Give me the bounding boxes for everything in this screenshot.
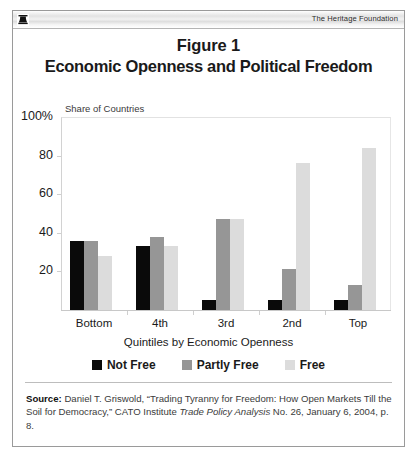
bar-3rd-partly-free [216,219,230,310]
x-axis-tick [127,311,128,315]
source-note: Source: Daniel T. Griswold, “Trading Tyr… [26,392,394,432]
header-title: The Heritage Foundation [312,14,398,23]
y-axis-label: 60 [17,186,53,200]
legend-item-free[interactable]: Free [285,358,325,372]
heritage-bell-logo-icon [17,14,29,26]
x-axis-tick [193,311,194,315]
legend-label: Partly Free [197,358,259,372]
legend-swatch-icon [92,360,102,370]
x-axis-title: Quintiles by Economic Openness [13,336,404,348]
legend-label: Free [300,358,325,372]
source-label: Source: [26,393,62,404]
bar-4th-free [164,246,178,310]
bar-4th-partly-free [150,237,164,310]
x-axis-tick [259,311,260,315]
bar-2nd-free [296,163,310,310]
bar-bottom-free [98,256,112,310]
y-axis-label: 100% [13,109,53,123]
x-axis-label-2nd: 2nd [257,317,327,329]
legend-swatch-icon [182,360,192,370]
figure-title: Economic Openness and Political Freedom [13,57,404,76]
x-axis-label-top: Top [323,317,393,329]
figure-card: The Heritage Foundation Figure 1 Economi… [12,10,405,447]
figure-page: The Heritage Foundation Figure 1 Economi… [0,0,417,464]
bar-2nd-partly-free [282,269,296,310]
legend-item-not-free[interactable]: Not Free [92,358,156,372]
bar-top-not-free [334,300,348,310]
figure-label: Figure 1 [13,36,404,55]
x-axis-tick [325,311,326,315]
x-axis-label-3rd: 3rd [191,317,261,329]
x-axis-label-bottom: Bottom [59,317,129,329]
bar-bottom-partly-free [84,241,98,310]
bar-bottom-not-free [70,241,84,310]
chart-legend: Not FreePartly FreeFree [13,358,404,372]
bar-3rd-free [230,219,244,310]
bar-3rd-not-free [202,300,216,310]
legend-item-partly-free[interactable]: Partly Free [182,358,259,372]
bar-2nd-not-free [268,300,282,310]
bars-layer [61,117,391,310]
bar-top-partly-free [348,285,362,310]
source-italic-title: Trade Policy Analysis [180,406,271,417]
x-axis-line [61,310,391,311]
y-axis-label: 40 [17,225,53,239]
bar-4th-not-free [136,246,150,310]
y-axis-label: 20 [17,263,53,277]
x-axis-label-4th: 4th [125,317,195,329]
plot-axis-note: Share of Countries [65,103,144,114]
y-axis-label: 80 [17,148,53,162]
legend-label: Not Free [107,358,156,372]
bar-chart: Share of Countries 20406080100% Bottom4t… [13,89,404,339]
legend-swatch-icon [285,360,295,370]
header-bar: The Heritage Foundation [13,11,404,29]
bar-top-free [362,148,376,310]
source-divider [25,382,392,383]
